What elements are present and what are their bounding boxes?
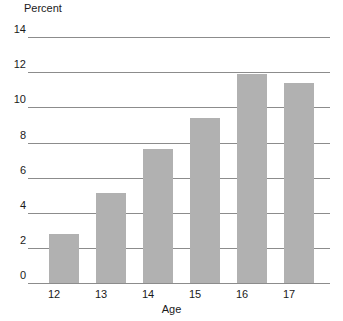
ytick-stub-2 [28,248,46,249]
bar-age-16 [237,74,267,283]
bar-age-17 [284,83,314,283]
plot-area [46,37,330,283]
xtick-label-16: 16 [222,289,262,300]
xtick-label-15: 15 [175,289,215,300]
bar-age-15 [190,118,220,283]
xtick-label-14: 14 [128,289,168,300]
ytick-label-12: 12 [6,59,26,70]
y-axis-title: Percent [24,2,62,15]
ytick-label-6: 6 [6,165,26,176]
ytick-label-2: 2 [6,235,26,246]
ytick-label-10: 10 [6,94,26,105]
ytick-label-0: 0 [6,270,26,281]
ytick-stub-12 [28,72,46,73]
ytick-stub-6 [28,178,46,179]
bar-age-13 [96,193,126,283]
axis-baseline [46,283,330,284]
bar-age-12 [49,234,79,283]
ytick-stub-4 [28,213,46,214]
bar-chart: Percent 14 12 10 8 6 4 2 0 12 13 14 1 [0,0,343,321]
ytick-label-8: 8 [6,130,26,141]
x-axis-title: Age [0,303,343,315]
ytick-stub-14 [28,37,46,38]
bar-age-14 [143,149,173,283]
xtick-label-13: 13 [81,289,121,300]
xtick-label-17: 17 [269,289,309,300]
ytick-stub-10 [28,107,46,108]
ytick-label-14: 14 [6,24,26,35]
ytick-stub-8 [28,143,46,144]
ytick-stub-0 [28,283,46,284]
xtick-label-12: 12 [34,289,74,300]
ytick-label-4: 4 [6,200,26,211]
bar-series [46,37,330,283]
